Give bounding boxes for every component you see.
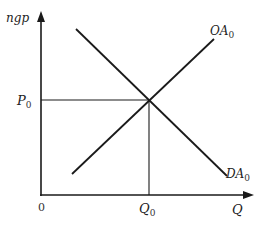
x-axis-arrow-icon — [243, 191, 254, 199]
x-axis-label: Q — [232, 202, 243, 217]
equilibrium-price-label: P0 — [16, 93, 32, 110]
origin-label: 0 — [38, 201, 45, 214]
y-axis-arrow-icon — [37, 11, 45, 22]
demand-curve-da — [76, 29, 227, 176]
supply-demand-diagram: ngp Q 0 P0 Q0 OA0 DA0 — [0, 0, 266, 228]
equilibrium-quantity-label: Q0 — [139, 201, 156, 218]
demand-curve-label: DA0 — [225, 167, 250, 183]
supply-curve-label: OA0 — [210, 24, 235, 40]
supply-curve-oa — [72, 39, 214, 174]
y-axis-label: ngp — [6, 11, 29, 25]
